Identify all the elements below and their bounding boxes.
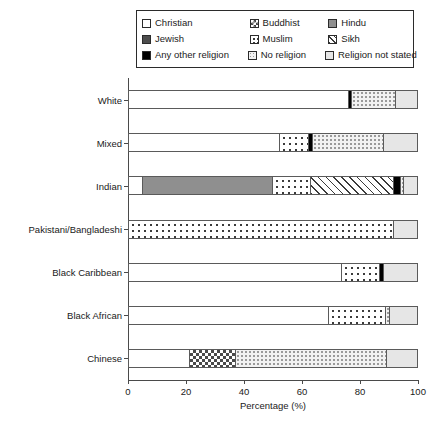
x-axis-tick-label: 0 xyxy=(125,386,130,397)
bar-segment-christian xyxy=(129,91,349,108)
bar-segment-religion-not-stated xyxy=(394,221,418,238)
bar-segment-muslim xyxy=(280,134,309,151)
y-axis-category-label: White xyxy=(98,94,122,105)
legend-label: Buddhist xyxy=(263,18,300,28)
bar-segment-no-religion xyxy=(236,350,387,367)
bar-segment-christian xyxy=(129,307,329,324)
bar-indian[interactable] xyxy=(128,176,418,195)
x-axis-tick xyxy=(186,380,187,384)
legend-label: Hindu xyxy=(341,18,366,28)
legend-swatch-icon xyxy=(248,51,257,60)
legend-item-religion-not-stated[interactable]: Religion not stated xyxy=(325,50,409,60)
legend-label: Christian xyxy=(155,18,193,28)
bar-segment-christian xyxy=(129,264,342,281)
legend-label: Muslim xyxy=(263,34,293,44)
x-axis-line xyxy=(128,380,418,381)
legend-swatch-icon xyxy=(328,19,337,28)
x-axis-tick xyxy=(244,380,245,384)
bar-segment-sikh xyxy=(311,177,394,194)
legend-row: JewishMuslimSikh xyxy=(142,31,409,47)
y-axis-labels: WhiteMixedIndianPakistani/BangladeshiBla… xyxy=(0,78,122,380)
bar-segment-buddhist xyxy=(190,350,236,367)
bar-segment-religion-not-stated xyxy=(396,91,418,108)
legend-item-hindu[interactable]: Hindu xyxy=(328,18,409,28)
legend-item-buddhist[interactable]: Buddhist xyxy=(250,18,329,28)
bar-white[interactable] xyxy=(128,90,418,109)
plot-area: 020406080100 xyxy=(128,78,418,380)
bar-segment-religion-not-stated xyxy=(390,307,418,324)
bar-segment-muslim xyxy=(129,221,394,238)
legend-swatch-icon xyxy=(142,51,151,60)
chart-container: ChristianBuddhistHinduJewishMuslimSikhAn… xyxy=(0,0,438,428)
legend-label: Jewish xyxy=(155,34,184,44)
legend-item-no-religion[interactable]: No religion xyxy=(248,50,325,60)
x-axis-tick xyxy=(418,380,419,384)
legend-label: Sikh xyxy=(341,34,359,44)
bar-black-caribbean[interactable] xyxy=(128,263,418,282)
legend-row: ChristianBuddhistHindu xyxy=(142,15,409,31)
x-axis-tick xyxy=(302,380,303,384)
legend-item-christian[interactable]: Christian xyxy=(142,18,250,28)
bar-segment-any-other-religion xyxy=(394,177,401,194)
bar-segment-religion-not-stated xyxy=(404,177,418,194)
x-axis-tick-label: 60 xyxy=(297,386,308,397)
bar-chinese[interactable] xyxy=(128,349,418,368)
x-axis-tick-label: 40 xyxy=(239,386,250,397)
y-axis-category-label: Black African xyxy=(67,310,122,321)
bar-segment-religion-not-stated xyxy=(384,264,418,281)
legend-label: Religion not stated xyxy=(338,50,417,60)
bar-segment-no-religion xyxy=(313,134,384,151)
legend-swatch-icon xyxy=(142,19,151,28)
bar-segment-muslim xyxy=(273,177,311,194)
legend-swatch-icon xyxy=(250,35,259,44)
legend-swatch-icon xyxy=(250,19,259,28)
x-axis-tick-label: 80 xyxy=(355,386,366,397)
bar-black-african[interactable] xyxy=(128,306,418,325)
bar-segment-muslim xyxy=(329,307,386,324)
bar-segment-christian xyxy=(129,350,190,367)
bar-segment-christian xyxy=(129,177,143,194)
legend-swatch-icon xyxy=(325,51,334,60)
bar-segment-religion-not-stated xyxy=(387,350,418,367)
y-axis-category-label: Pakistani/Bangladeshi xyxy=(29,224,122,235)
x-axis-title: Percentage (%) xyxy=(128,400,418,411)
bar-mixed[interactable] xyxy=(128,133,418,152)
y-axis-category-label: Chinese xyxy=(87,353,122,364)
y-axis-category-label: Black Caribbean xyxy=(52,267,122,278)
legend-item-jewish[interactable]: Jewish xyxy=(142,34,250,44)
legend-label: No religion xyxy=(261,50,306,60)
legend-row: Any other religionNo religionReligion no… xyxy=(142,47,409,63)
x-axis-tick-label: 100 xyxy=(410,386,426,397)
bar-segment-muslim xyxy=(342,264,380,281)
y-axis-category-label: Mixed xyxy=(97,137,122,148)
legend-swatch-icon xyxy=(328,35,337,44)
legend-item-muslim[interactable]: Muslim xyxy=(250,34,329,44)
bar-segment-no-religion xyxy=(352,91,396,108)
x-axis-tick xyxy=(360,380,361,384)
legend-label: Any other religion xyxy=(155,50,229,60)
legend-item-any-other-religion[interactable]: Any other religion xyxy=(142,50,248,60)
bar-segment-christian xyxy=(129,134,280,151)
bar-segment-hindu xyxy=(143,177,274,194)
bar-segment-religion-not-stated xyxy=(384,134,418,151)
x-axis-tick xyxy=(128,380,129,384)
bar-pakistani-bangladeshi[interactable] xyxy=(128,220,418,239)
legend-swatch-icon xyxy=(142,35,151,44)
chart-legend: ChristianBuddhistHinduJewishMuslimSikhAn… xyxy=(136,10,414,68)
y-axis-category-label: Indian xyxy=(96,180,122,191)
legend-item-sikh[interactable]: Sikh xyxy=(328,34,409,44)
x-axis-tick-label: 20 xyxy=(181,386,192,397)
